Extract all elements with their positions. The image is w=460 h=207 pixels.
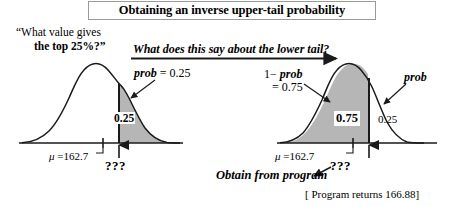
right-one-minus-value: = 0.75 bbox=[264, 81, 303, 94]
left-unknown-marker: ??? bbox=[105, 158, 126, 174]
right-one-minus-prob-line-1: 1− prob bbox=[264, 68, 303, 81]
right-one-minus-prob-label: 1− prob = 0.75 bbox=[264, 68, 303, 93]
left-question-line-1: “What value gives bbox=[16, 26, 166, 40]
right-upper-area-value: 0.25 bbox=[378, 113, 397, 125]
right-mu-leader bbox=[346, 148, 353, 153]
left-mu-value: =162.7 bbox=[55, 150, 89, 162]
right-unknown-marker: ??? bbox=[330, 158, 351, 174]
right-mean-label: μ =162.7 bbox=[275, 150, 314, 162]
right-mu-value: =162.7 bbox=[281, 150, 315, 162]
figure-canvas: Obtaining an inverse upper-tail probabil… bbox=[0, 0, 460, 207]
right-prob-variable: prob bbox=[404, 70, 427, 85]
right-one-minus-prefix: 1− bbox=[264, 67, 280, 81]
left-prob-value: = 0.25 bbox=[157, 66, 191, 80]
right-prob-pointer bbox=[384, 84, 406, 104]
left-mean-label: μ =162.7 bbox=[49, 150, 88, 162]
program-returns-note: [ Program returns 166.88] bbox=[305, 188, 419, 200]
figure-title-box: Obtaining an inverse upper-tail probabil… bbox=[88, 1, 376, 20]
right-lower-area-value: 0.75 bbox=[334, 111, 360, 126]
left-mu-leader bbox=[96, 148, 103, 153]
right-one-minus-variable: prob bbox=[280, 67, 303, 81]
left-prob-equation-label: prob = 0.25 bbox=[134, 66, 190, 81]
right-oneminus-pointer bbox=[304, 84, 330, 102]
left-prob-variable: prob bbox=[134, 66, 157, 80]
left-area-value: 0.25 bbox=[113, 112, 135, 124]
obtain-from-program-label: Obtain from program bbox=[216, 168, 327, 183]
left-prob-pointer bbox=[131, 80, 155, 98]
middle-question-annotation: What does this say about the lower tail? bbox=[133, 42, 329, 57]
page-title: Obtaining an inverse upper-tail probabil… bbox=[119, 3, 345, 18]
